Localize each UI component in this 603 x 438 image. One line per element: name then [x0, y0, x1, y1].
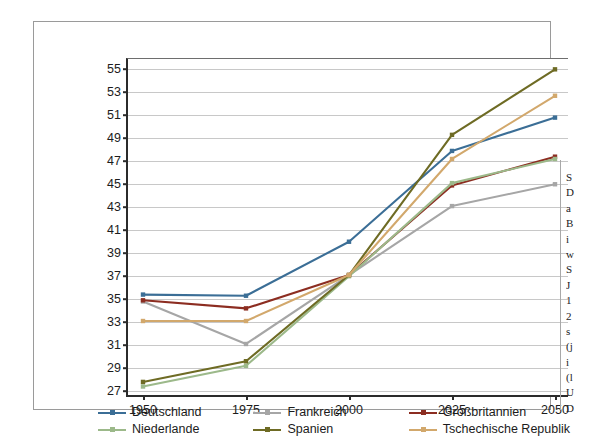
y-tick-label: 27 [107, 385, 121, 398]
caption-line: S [566, 170, 603, 185]
legend-label: Spanien [287, 423, 333, 436]
side-caption-text: SDaBiwSJ12s(ji(lUD [566, 170, 603, 416]
series-marker [141, 380, 145, 384]
series-marker [553, 115, 557, 119]
legend-swatch-icon [409, 425, 437, 435]
legend-label: Tschechische Republik [443, 423, 570, 436]
caption-line: 1 [566, 293, 603, 308]
y-tick-label: 41 [107, 224, 121, 237]
series-marker [553, 67, 557, 71]
y-tick-label: 43 [107, 201, 121, 214]
series-marker [450, 204, 454, 208]
legend-item-frankreich[interactable]: Frankreich [253, 406, 408, 419]
y-tick-label: 45 [107, 178, 121, 191]
legend-item-deutschland[interactable]: Deutschland [98, 406, 253, 419]
y-tick-label: 47 [107, 155, 121, 168]
series-line [143, 157, 555, 309]
series-marker [141, 292, 145, 296]
legend-label: Deutschland [132, 406, 202, 419]
series-marker [553, 157, 557, 161]
series-marker [141, 319, 145, 323]
series-line [143, 159, 555, 387]
legend-label: Niederlande [132, 423, 199, 436]
caption-line: B [566, 216, 603, 231]
legend-swatch-icon [409, 408, 437, 418]
series-line [143, 69, 555, 382]
caption-line: J [566, 278, 603, 293]
series-marker [244, 306, 248, 310]
series-marker [244, 364, 248, 368]
series-marker [244, 319, 248, 323]
legend-swatch-icon [253, 425, 281, 435]
chart-series-layer [128, 59, 570, 398]
series-marker [553, 94, 557, 98]
legend-item-tschechische-republik[interactable]: Tschechische Republik [409, 423, 570, 436]
series-marker [347, 240, 351, 244]
chart-frame: 272931333537394143454749515355 195019752… [33, 21, 551, 410]
caption-line: 2 [566, 309, 603, 324]
caption-line: D [566, 401, 603, 416]
y-tick-label: 53 [107, 86, 121, 99]
series-marker [450, 133, 454, 137]
caption-line: U [566, 385, 603, 400]
y-tick-label: 49 [107, 132, 121, 145]
chart-legend: DeutschlandFrankreichGroßbritannienNiede… [98, 404, 570, 438]
legend-item-gro-britannien[interactable]: Großbritannien [409, 406, 570, 419]
y-tick-label: 29 [107, 362, 121, 375]
chart-plot-area: 272931333537394143454749515355 195019752… [126, 58, 568, 397]
y-tick-label: 55 [107, 63, 121, 76]
caption-line: i [566, 355, 603, 370]
caption-line: S [566, 262, 603, 277]
series-marker [244, 294, 248, 298]
legend-label: Frankreich [287, 406, 346, 419]
series-marker [141, 298, 145, 302]
legend-swatch-icon [98, 425, 126, 435]
series-marker [244, 359, 248, 363]
legend-swatch-icon [98, 408, 126, 418]
y-tick-label: 35 [107, 293, 121, 306]
series-marker [553, 182, 557, 186]
caption-line: a [566, 201, 603, 216]
caption-line: D [566, 185, 603, 200]
series-line [143, 96, 555, 321]
legend-label: Großbritannien [443, 406, 526, 419]
legend-swatch-icon [253, 408, 281, 418]
caption-line: s [566, 324, 603, 339]
series-marker [450, 181, 454, 185]
caption-line: (l [566, 370, 603, 385]
y-tick-label: 33 [107, 316, 121, 329]
caption-line: w [566, 247, 603, 262]
y-tick-label: 51 [107, 109, 121, 122]
y-tick-label: 31 [107, 339, 121, 352]
series-marker [347, 273, 351, 277]
caption-line: i [566, 232, 603, 247]
caption-divider-rule [560, 160, 561, 410]
series-marker [450, 157, 454, 161]
y-tick-label: 39 [107, 247, 121, 260]
y-tick-label: 37 [107, 270, 121, 283]
series-line [143, 118, 555, 296]
series-marker [450, 149, 454, 153]
legend-item-spanien[interactable]: Spanien [253, 423, 408, 436]
series-marker [244, 342, 248, 346]
legend-item-niederlande[interactable]: Niederlande [98, 423, 253, 436]
series-marker [141, 384, 145, 388]
chart-plot-wrapper: 272931333537394143454749515355 195019752… [98, 58, 568, 397]
caption-line: (j [566, 339, 603, 354]
